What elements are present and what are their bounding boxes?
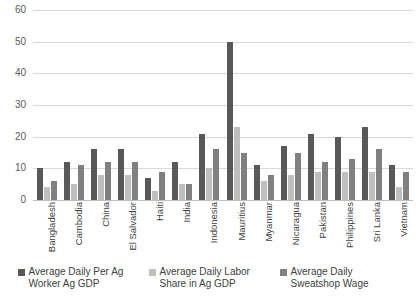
bar <box>315 172 321 201</box>
bar-group <box>60 10 87 200</box>
legend-swatch <box>280 269 287 276</box>
bar-group <box>386 10 413 200</box>
bar <box>206 168 212 200</box>
bar <box>362 127 368 200</box>
x-axis-tick: Myanmar <box>250 200 277 258</box>
x-axis-tick-label: Sri Lanka <box>372 202 382 242</box>
bar <box>64 162 70 200</box>
bar <box>268 175 274 200</box>
bar <box>389 165 395 200</box>
bar <box>288 175 294 200</box>
bar <box>51 181 57 200</box>
bar <box>322 162 328 200</box>
y-axis-tick-label: 0 <box>20 195 26 205</box>
bar <box>342 172 348 201</box>
bar <box>254 165 260 200</box>
bar <box>295 153 301 201</box>
bar <box>125 175 131 200</box>
bar <box>234 127 240 200</box>
y-axis-tick-label: 40 <box>15 68 26 78</box>
bar <box>132 162 138 200</box>
x-axis-tick-label: El Salvador <box>128 202 138 251</box>
y-axis-tick-label: 50 <box>15 37 26 47</box>
legend-item[interactable]: Average Daily Labor Share in Ag GDP <box>149 266 268 290</box>
bar <box>152 191 158 201</box>
x-axis-tick: Nicaragua <box>277 200 304 258</box>
x-axis-tick: Indonesia <box>196 200 223 258</box>
x-axis-tick-label: Cambodia <box>74 202 84 245</box>
bar-group <box>87 10 114 200</box>
legend-label: Average Daily Labor Share in Ag GDP <box>160 266 268 290</box>
bar <box>91 149 97 200</box>
bar <box>118 149 124 200</box>
x-axis-tick-label: Myanmar <box>264 202 274 242</box>
x-axis-tick-label: Indonesia <box>209 202 219 243</box>
x-axis-tick: El Salvador <box>114 200 141 258</box>
bar <box>98 175 104 200</box>
bar-chart: 0102030405060 BangladeshCambodiaChinaEl … <box>0 0 416 304</box>
bar <box>37 168 43 200</box>
bar <box>179 184 185 200</box>
bar-group <box>169 10 196 200</box>
bar <box>241 153 247 201</box>
bar <box>335 137 341 200</box>
bar <box>145 178 151 200</box>
bar-group <box>332 10 359 200</box>
x-axis-tick-label: Pakistan <box>318 202 328 238</box>
x-axis-tick-label: Bangladesh <box>47 202 57 252</box>
bar-group <box>114 10 141 200</box>
x-axis-tick-label: Haiti <box>155 202 165 221</box>
legend-swatch <box>18 269 25 276</box>
bar <box>403 172 409 201</box>
legend-item[interactable]: Average Daily Per Ag Worker Ag GDP <box>18 266 137 290</box>
bar-group <box>196 10 223 200</box>
legend-swatch <box>149 269 156 276</box>
y-axis: 0102030405060 <box>0 0 30 205</box>
bar <box>172 162 178 200</box>
legend-label: Average Daily Sweatshop Wage <box>291 266 399 290</box>
bar <box>261 181 267 200</box>
bar-group <box>304 10 331 200</box>
bar <box>44 187 50 200</box>
legend-item[interactable]: Average Daily Sweatshop Wage <box>280 266 399 290</box>
x-axis-tick: Philippines <box>332 200 359 258</box>
x-axis-tick-label: Philippines <box>345 202 355 248</box>
x-axis-tick: Mauritius <box>223 200 250 258</box>
x-axis-tick: Haiti <box>142 200 169 258</box>
x-axis-tick: Pakistan <box>304 200 331 258</box>
bar <box>349 159 355 200</box>
x-axis-tick-label: India <box>182 202 192 223</box>
x-axis-tick: Vietnam <box>386 200 413 258</box>
bar <box>159 172 165 201</box>
bar <box>105 162 111 200</box>
x-axis-tick: Bangladesh <box>33 200 60 258</box>
legend-label: Average Daily Per Ag Worker Ag GDP <box>29 266 137 290</box>
bar <box>71 184 77 200</box>
y-axis-tick-label: 20 <box>15 132 26 142</box>
x-axis-tick-label: China <box>101 202 111 227</box>
bars-container <box>33 10 413 200</box>
x-axis-tick: Cambodia <box>60 200 87 258</box>
bar-group <box>33 10 60 200</box>
bar <box>199 134 205 201</box>
plot-area: 0102030405060 BangladeshCambodiaChinaEl … <box>0 0 416 205</box>
bar <box>186 184 192 200</box>
chart-legend: Average Daily Per Ag Worker Ag GDPAverag… <box>0 262 416 304</box>
bar-group <box>359 10 386 200</box>
bar <box>78 165 84 200</box>
x-axis-tick-label: Vietnam <box>399 202 409 237</box>
bar <box>308 134 314 201</box>
x-axis: BangladeshCambodiaChinaEl SalvadorHaitiI… <box>33 200 413 258</box>
bar-group <box>277 10 304 200</box>
bar-group <box>142 10 169 200</box>
x-axis-tick: Sri Lanka <box>359 200 386 258</box>
x-axis-tick-label: Nicaragua <box>291 202 301 245</box>
y-axis-tick-label: 30 <box>15 100 26 110</box>
bar <box>227 42 233 200</box>
x-axis-tick-label: Mauritius <box>237 202 247 241</box>
x-axis-tick: China <box>87 200 114 258</box>
y-axis-tick-label: 60 <box>15 5 26 15</box>
bar <box>376 149 382 200</box>
y-axis-tick-label: 10 <box>15 163 26 173</box>
bar <box>396 187 402 200</box>
